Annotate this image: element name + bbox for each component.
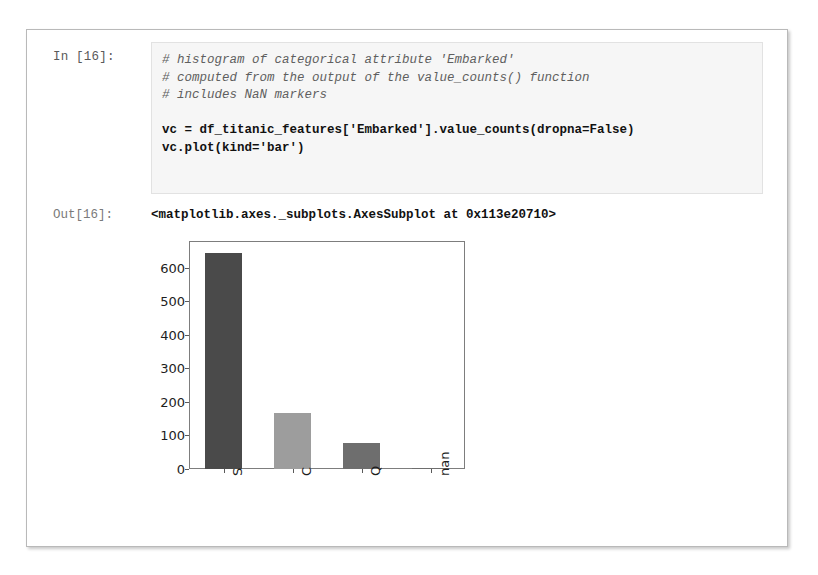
y-tick-label: 0 [149,462,185,477]
output-repr-text: <matplotlib.axes._subplots.AxesSubplot a… [151,208,556,222]
y-tick-label: 200 [149,394,185,409]
code-line: # histogram of categorical attribute 'Em… [162,52,754,70]
output-row: Out[16]: <matplotlib.axes._subplots.Axes… [53,208,773,230]
x-tick-label-C: C [299,467,314,476]
x-tick-mark [362,469,363,473]
x-tick-label-S: S [230,468,245,476]
code-line: vc.plot(kind='bar') [162,140,754,158]
bars-container [189,241,465,469]
y-tick-mark [185,368,189,369]
x-tick-mark [224,469,225,473]
x-tick-mark [293,469,294,473]
y-tick-label: 600 [149,260,185,275]
bar-S [205,253,243,469]
y-tick-label: 100 [149,428,185,443]
code-editor[interactable]: # histogram of categorical attribute 'Em… [151,42,763,194]
code-line: # computed from the output of the value_… [162,70,754,88]
x-tick-mark [431,469,432,473]
output-prompt-label: Out[16]: [53,208,113,222]
code-line-blank [162,105,754,123]
bar-C [274,413,312,469]
y-axis-tick-labels: 0100200300400500600 [147,241,185,469]
y-tick-mark [185,435,189,436]
bar-chart-figure: 0100200300400500600 SCQnan [147,235,487,535]
input-cell: In [16]: # histogram of categorical attr… [53,42,763,194]
input-prompt-label: In [16]: [53,50,145,64]
y-tick-label: 300 [149,361,185,376]
y-tick-label: 400 [149,327,185,342]
y-tick-label: 500 [149,294,185,309]
y-tick-mark [185,301,189,302]
notebook-cell-card: In [16]: # histogram of categorical attr… [26,29,788,547]
x-tick-label-Q: Q [368,466,383,476]
code-line: # includes NaN markers [162,87,754,105]
y-tick-mark [185,469,189,470]
x-tick-label-nan: nan [437,452,452,476]
y-tick-mark [185,268,189,269]
code-line: vc = df_titanic_features['Embarked'].val… [162,122,754,140]
y-tick-mark [185,335,189,336]
y-tick-mark [185,402,189,403]
